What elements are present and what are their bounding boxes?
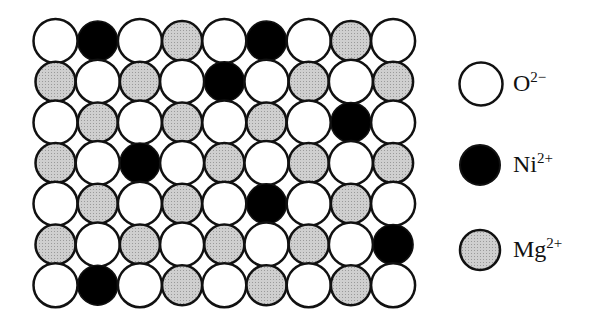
oxide-ion — [118, 182, 162, 226]
oxide-ion — [76, 60, 120, 104]
nickel-ion — [247, 184, 287, 224]
oxide-ion — [371, 263, 415, 307]
nickel-ion — [373, 225, 413, 265]
oxide-ion — [76, 141, 120, 185]
magnesium-ion — [373, 62, 413, 102]
magnesium-ion — [36, 225, 76, 265]
oxide-ion — [371, 100, 415, 144]
nickel-ion-icon — [456, 141, 506, 189]
magnesium-ion-icon — [456, 226, 506, 274]
legend-label-nickel: Ni2+ — [513, 150, 553, 178]
nickel-ion — [331, 102, 371, 142]
oxide-ion — [34, 263, 78, 307]
magnesium-ion — [36, 62, 76, 102]
oxide-ion — [202, 100, 246, 144]
magnesium-ion — [289, 225, 329, 265]
magnesium-ion — [120, 225, 160, 265]
magnesium-ion — [162, 265, 202, 305]
magnesium-ion — [120, 62, 160, 102]
oxide-ion — [118, 19, 162, 63]
oxide-ion — [245, 223, 289, 267]
oxide-ion — [202, 19, 246, 63]
legend-label-magnesium: Mg2+ — [513, 235, 562, 263]
magnesium-ion — [247, 102, 287, 142]
oxide-ion — [118, 100, 162, 144]
oxide-ion — [287, 100, 331, 144]
oxide-ion — [34, 100, 78, 144]
legend-oxide: O2− — [456, 60, 594, 108]
nickel-ion — [120, 143, 160, 183]
magnesium-ion — [204, 225, 244, 265]
oxide-ion — [245, 60, 289, 104]
magnesium-ion — [162, 21, 202, 61]
nickel-ion — [247, 21, 287, 61]
oxide-ion-icon — [456, 60, 506, 108]
magnesium-ion — [204, 143, 244, 183]
oxide-ion — [329, 60, 373, 104]
magnesium-ion — [36, 143, 76, 183]
magnesium-ion — [331, 265, 371, 305]
nickel-ion — [204, 62, 244, 102]
nickel-ion — [78, 265, 118, 305]
magnesium-ion — [78, 102, 118, 142]
oxide-ion — [287, 182, 331, 226]
nickel-ion — [78, 21, 118, 61]
oxide-ion — [329, 141, 373, 185]
crystal-lattice — [0, 0, 430, 317]
magnesium-ion — [373, 143, 413, 183]
magnesium-ion — [289, 62, 329, 102]
oxide-ion — [287, 263, 331, 307]
oxide-ion — [160, 141, 204, 185]
oxide-ion — [34, 182, 78, 226]
oxide-ion — [202, 182, 246, 226]
oxide-ion — [329, 223, 373, 267]
magnesium-ion — [289, 143, 329, 183]
magnesium-ion — [331, 21, 371, 61]
magnesium-ion — [247, 265, 287, 305]
oxide-ion — [371, 19, 415, 63]
magnesium-ion — [331, 184, 371, 224]
magnesium-ion — [78, 184, 118, 224]
magnesium-ion — [162, 184, 202, 224]
magnesium-ion — [162, 102, 202, 142]
oxide-ion — [160, 223, 204, 267]
oxide-ion — [160, 60, 204, 104]
oxide-ion — [118, 263, 162, 307]
oxide-ion — [371, 182, 415, 226]
legend-nickel: Ni2+ — [456, 141, 594, 189]
oxide-ion — [287, 19, 331, 63]
legend-magnesium: Mg2+ — [456, 226, 594, 274]
oxide-ion — [34, 19, 78, 63]
oxide-ion — [76, 223, 120, 267]
oxide-ion — [245, 141, 289, 185]
oxide-ion — [202, 263, 246, 307]
legend-label-oxide: O2− — [513, 69, 546, 97]
